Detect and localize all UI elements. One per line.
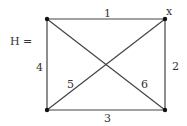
edge-label-1: 1 xyxy=(104,7,111,20)
edge-label-6: 6 xyxy=(141,78,148,91)
graph-name-label: H = xyxy=(10,35,32,48)
edge-label-3: 3 xyxy=(104,112,111,125)
graph-diagram: H = x 1 2 3 4 5 6 xyxy=(0,0,187,126)
vertex-bl xyxy=(45,108,49,112)
edge-label-2: 2 xyxy=(172,60,179,73)
edge-label-5: 5 xyxy=(67,78,74,91)
edge-label-4: 4 xyxy=(36,61,43,74)
vertex-x-label: x xyxy=(166,5,173,18)
vertex-tl xyxy=(45,17,49,21)
vertex-br xyxy=(163,108,167,112)
